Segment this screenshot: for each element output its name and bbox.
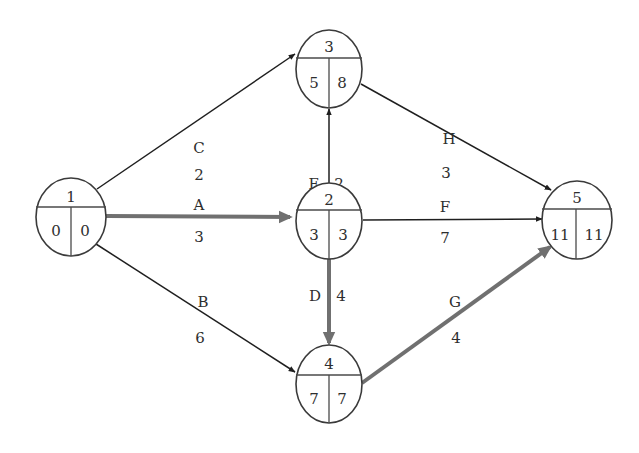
node-2-id: 2 bbox=[324, 191, 334, 209]
node-1: 1 0 0 bbox=[36, 178, 106, 256]
node-5: 5 11 11 bbox=[542, 181, 612, 259]
edge-c-activity: C bbox=[193, 139, 204, 157]
node-2-early: 3 bbox=[309, 226, 319, 244]
edge-a-duration: 3 bbox=[194, 228, 204, 246]
edge-a: A 3 bbox=[106, 196, 290, 246]
edge-g-duration: 4 bbox=[451, 329, 461, 347]
edge-h-duration: 3 bbox=[441, 164, 451, 182]
node-3-id: 3 bbox=[324, 38, 334, 56]
edge-g: G 4 bbox=[362, 247, 550, 383]
edge-d-activity: D bbox=[309, 287, 321, 305]
edge-h-activity: H bbox=[442, 130, 455, 148]
node-2-late: 3 bbox=[338, 226, 348, 244]
node-4-id: 4 bbox=[324, 355, 334, 373]
network-diagram: C 2 A 3 B 6 E 2 D 4 F 7 H 3 G 4 bbox=[0, 0, 639, 453]
edge-c: C 2 bbox=[97, 54, 295, 189]
node-3: 3 5 8 bbox=[296, 30, 362, 108]
edge-b-duration: 6 bbox=[195, 329, 205, 347]
node-4-late: 7 bbox=[337, 390, 347, 408]
node-4: 4 7 7 bbox=[296, 345, 362, 423]
node-4-early: 7 bbox=[309, 390, 319, 408]
edge-d: D 4 bbox=[309, 259, 346, 343]
node-3-late: 8 bbox=[337, 74, 347, 92]
node-3-early: 5 bbox=[309, 74, 319, 92]
node-5-early: 11 bbox=[550, 226, 569, 244]
node-2: 2 3 3 bbox=[296, 183, 362, 259]
edge-e: E 2 bbox=[309, 109, 344, 193]
edge-b: B 6 bbox=[96, 244, 295, 372]
node-1-id: 1 bbox=[66, 188, 76, 206]
edge-h: H 3 bbox=[361, 84, 551, 190]
edge-a-activity: A bbox=[193, 196, 205, 214]
edge-f: F 7 bbox=[363, 198, 542, 247]
edge-b-activity: B bbox=[197, 293, 208, 311]
edge-f-duration: 7 bbox=[440, 229, 450, 247]
edge-g-activity: G bbox=[449, 293, 461, 311]
node-1-late: 0 bbox=[80, 222, 90, 240]
edge-c-duration: 2 bbox=[194, 166, 204, 184]
node-5-id: 5 bbox=[572, 189, 582, 207]
node-5-late: 11 bbox=[584, 226, 603, 244]
node-1-early: 0 bbox=[51, 222, 61, 240]
edge-d-duration: 4 bbox=[336, 287, 346, 305]
edge-f-activity: F bbox=[440, 198, 450, 216]
